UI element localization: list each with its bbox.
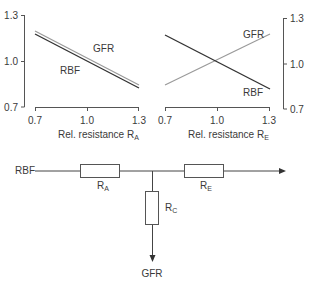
left-x-tick-2: 1.3 (132, 115, 146, 126)
arrow-down-icon (150, 255, 156, 262)
circuit-diagram: RBF RA RE RC GFR (15, 165, 286, 280)
resistor-ra-label: RA (97, 180, 109, 192)
right-y-tick-mid: 1.0 (290, 59, 304, 70)
resistor-rc-label: RC (165, 202, 177, 214)
left-y-tick-mid: 1.0 (4, 56, 18, 67)
right-gfr-label: GFR (243, 29, 264, 40)
right-y-tick-bottom: 0.7 (290, 104, 304, 115)
left-x-label: Rel. resistance RA (58, 129, 139, 141)
arrow-right-icon (279, 168, 286, 174)
right-chart: 1.3 1.0 0.7 0.7 1.0 1.3 Rel. resistance … (158, 13, 304, 141)
right-x-tick-1: 1.0 (210, 115, 224, 126)
resistor-ra (81, 165, 120, 178)
right-x-tick-0: 0.7 (158, 115, 172, 126)
left-x-tick-1: 1.0 (80, 115, 94, 126)
resistor-re (185, 165, 224, 178)
circuit-input-label: RBF (15, 165, 35, 176)
left-gfr-label: GFR (93, 43, 114, 54)
right-rbf-label: RBF (243, 87, 263, 98)
right-x-label: Rel. resistance RE (188, 129, 269, 141)
renal-resistance-diagram: 1.3 1.0 0.7 0.7 1.0 1.3 Rel. resistance … (0, 0, 310, 288)
right-gfr-line (165, 34, 270, 85)
resistor-rc (146, 192, 159, 225)
right-rbf-line (165, 35, 270, 89)
left-gfr-line (35, 31, 139, 85)
left-rbf-line (35, 34, 139, 88)
right-y-tick-top: 1.3 (290, 13, 304, 24)
circuit-output-label: GFR (141, 268, 162, 279)
left-y-tick-top: 1.3 (4, 10, 18, 21)
left-rbf-label: RBF (60, 65, 80, 76)
left-x-tick-0: 0.7 (28, 115, 42, 126)
resistor-re-label: RE (200, 180, 212, 192)
left-y-tick-bottom: 0.7 (4, 102, 18, 113)
left-chart: 1.3 1.0 0.7 0.7 1.0 1.3 Rel. resistance … (4, 10, 146, 141)
right-x-tick-2: 1.3 (262, 115, 276, 126)
